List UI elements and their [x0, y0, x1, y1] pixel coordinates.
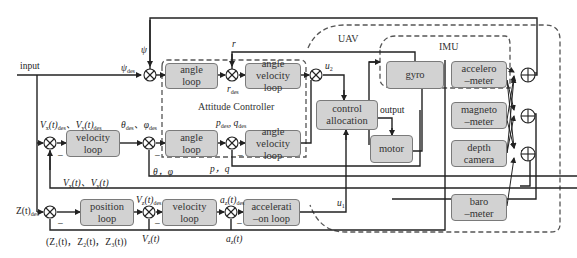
barometer-block: baro –meter	[451, 194, 507, 221]
velocity-loop-xy-block: velocity loop	[66, 130, 120, 157]
z-feedback-label: (Z₁(t)，Z₂(t)，Z₃(t))	[46, 234, 127, 248]
gyro-block: gyro	[386, 61, 444, 89]
uav-label: UAV	[338, 33, 358, 44]
fusion-junction-2	[521, 109, 535, 123]
u2-label: u2	[325, 61, 333, 72]
sum-junction-psi	[144, 69, 156, 81]
magnetometer-block: magneto –meter	[451, 102, 507, 129]
minus-sign-vz: –	[155, 218, 160, 228]
angle-loop-roll-pitch-block: angle loop	[165, 130, 218, 157]
imu-label: IMU	[439, 41, 458, 52]
motor-block: motor	[370, 135, 413, 163]
z-des-label: Z(t)des	[16, 206, 39, 217]
az-feedback-label: az(t)	[226, 234, 242, 245]
attitude-controller-label: Attitude Controller	[198, 101, 274, 112]
r-des-label: rdes	[227, 84, 239, 95]
output-label: output	[380, 105, 404, 115]
sum-junction-az	[225, 206, 237, 218]
control-allocation-block: control allocation	[316, 100, 378, 130]
sum-junction-pq	[226, 137, 238, 149]
psi-des-label: ψdes	[121, 63, 135, 74]
vz-feedback-label: Vz(t)	[142, 234, 159, 245]
vxy-des-label: Vx(t)des、Vy(t)des	[40, 117, 102, 131]
r-feedback-label: r	[232, 39, 236, 49]
sum-junction-theta-phi	[143, 137, 155, 149]
acceleration-loop-block: accelerati –on loop	[243, 199, 300, 226]
psi-feedback-label: ψ	[141, 45, 147, 55]
depth-camera-block: depth camera	[451, 140, 507, 167]
minus-sign-vxy: –	[58, 150, 63, 160]
theta-phi-des-label: θdes、φdes	[121, 117, 157, 131]
minus-sign-az: –	[237, 218, 242, 228]
angle-loop-yaw-block: angle loop	[165, 63, 218, 89]
sum-junction-z	[44, 206, 56, 218]
pq-des-label: pdes, qdes	[216, 118, 246, 129]
minus-sign-theta-phi: –	[155, 150, 160, 160]
vxy-feedback-label: Vx(t)、Vy(t)	[63, 175, 109, 189]
minus-sign-z: –	[58, 218, 63, 228]
input-label: input	[20, 61, 40, 71]
u1-label: u1	[337, 198, 345, 209]
velocity-loop-z-block: velocity loop	[162, 199, 217, 226]
az-des-label: az(t)des	[220, 195, 244, 206]
fusion-junction-3	[521, 147, 535, 161]
angle-velocity-loop-roll-pitch-block: angle velocity loop	[245, 130, 301, 157]
vz-des-label: Vz(t)des	[136, 195, 161, 206]
minus-sign-pq: –	[238, 150, 243, 160]
sum-junction-vxy	[44, 137, 56, 149]
accelerometer-block: accelero –meter	[451, 61, 507, 88]
pq-feedback-label: p，q	[210, 161, 230, 175]
fusion-junction-1	[521, 68, 535, 82]
position-loop-block: position loop	[80, 199, 134, 226]
sum-junction-vz	[143, 206, 155, 218]
theta-phi-feedback-label: θ，φ	[153, 164, 173, 178]
sum-junction-r	[226, 69, 238, 81]
angle-velocity-loop-yaw-block: angle velocity loop	[245, 63, 301, 89]
sum-junction-u2	[310, 69, 322, 81]
